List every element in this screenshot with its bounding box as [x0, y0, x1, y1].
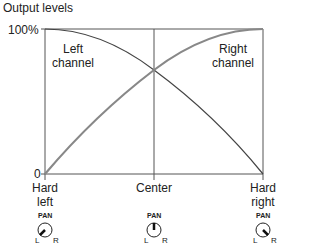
knob-right-pan-label: PAN [256, 212, 270, 219]
x-label-hard-right: Hard right [243, 181, 283, 209]
knob-center-icon [147, 223, 161, 237]
knob-hard-right-icon [256, 223, 270, 237]
x-label-hard-left: Hard left [25, 181, 65, 209]
knob-right-l: L [253, 236, 257, 245]
knob-left-pan-label: PAN [38, 212, 52, 219]
left-channel-label: Left channel [52, 42, 94, 70]
knob-left-r: R [53, 236, 59, 245]
right-channel-label: Right channel [210, 42, 256, 70]
knob-center-r: R [162, 236, 168, 245]
knob-center-l: L [144, 236, 148, 245]
knob-right-r: R [271, 236, 277, 245]
knob-left-l: L [35, 236, 39, 245]
x-label-center: Center [124, 181, 184, 195]
knob-hard-left-icon [38, 223, 52, 237]
knob-center-pan-label: PAN [147, 212, 161, 219]
